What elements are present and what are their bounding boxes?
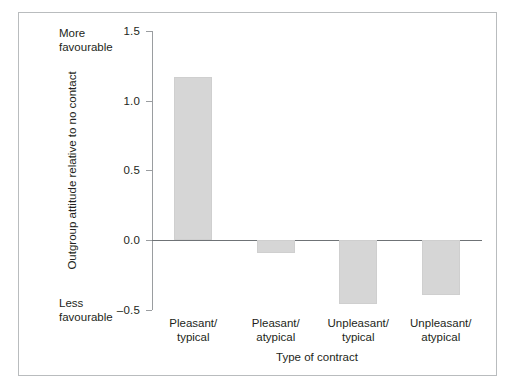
y-tick-mark-5	[146, 310, 152, 311]
y-axis-title: Outgroup attitude relative to no contact	[66, 31, 82, 310]
bar-2	[257, 240, 295, 253]
y-tick-mark-1	[146, 31, 152, 32]
x-tick-label-2-line-2: atypical	[235, 330, 318, 344]
bar-4	[422, 240, 460, 294]
y-axis-line	[152, 31, 153, 310]
y-tick-label-2: 1.0	[123, 95, 140, 107]
plot-area: Outgroup attitude relative to no contact	[152, 31, 482, 310]
x-tick-label-1-line-2: typical	[152, 330, 235, 344]
bar-3	[339, 240, 377, 304]
x-axis-tick-labels: Pleasant/typicalPleasant/atypicalUnpleas…	[152, 316, 482, 344]
x-tick-label-3-line-1: Unpleasant/	[317, 316, 400, 330]
x-tick-label-3-line-2: typical	[317, 330, 400, 344]
less-favourable-line-2: favourable	[59, 310, 113, 324]
y-tick-label-5: –0.5	[117, 304, 140, 316]
y-tick-mark-2	[146, 101, 152, 102]
y-tick-label-3: 0.5	[123, 164, 140, 176]
x-tick-label-4-line-1: Unpleasant/	[400, 316, 483, 330]
x-tick-label-2: Pleasant/atypical	[235, 316, 318, 344]
y-tick-mark-3	[146, 170, 152, 171]
y-tick-label-4: 0.0	[123, 234, 140, 246]
x-tick-label-3: Unpleasant/typical	[317, 316, 400, 344]
x-tick-label-1: Pleasant/typical	[152, 316, 235, 344]
figure-frame: More favourable Less favourable 1.5 1.0 …	[18, 12, 497, 376]
x-tick-label-1-line-1: Pleasant/	[152, 316, 235, 330]
x-tick-label-4: Unpleasant/atypical	[400, 316, 483, 344]
y-tick-label-1: 1.5	[123, 25, 140, 37]
x-axis-title: Type of contract	[152, 351, 482, 363]
bar-1	[174, 77, 212, 240]
x-tick-label-2-line-1: Pleasant/	[235, 316, 318, 330]
x-tick-label-4-line-2: atypical	[400, 330, 483, 344]
